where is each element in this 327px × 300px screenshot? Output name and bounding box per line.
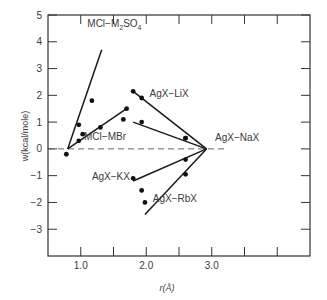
data-point (183, 136, 188, 141)
series-label: AgX−LiX (150, 88, 190, 99)
series-label: MCl−MBr (84, 131, 127, 142)
series-agx-nax: AgX−NaX (133, 120, 259, 149)
y-tick-label: −3 (31, 224, 43, 235)
y-tick-label: −2 (31, 197, 43, 208)
series-label: MCl−M2SO4 (87, 18, 141, 31)
x-axis-title: r(Å) (160, 283, 175, 293)
x-tick-label: 1.0 (74, 260, 88, 271)
data-point (139, 96, 144, 101)
fit-line (133, 122, 206, 149)
y-tick-label: 5 (36, 10, 42, 21)
fit-line (145, 149, 207, 215)
x-tick-label: 2.0 (139, 260, 153, 271)
data-point (131, 89, 136, 94)
y-axis-title: w(kcal/mole) (20, 111, 30, 163)
series-layer: MCl−M2SO4MCl−MBrAgX−LiXAgX−NaXAgX−KXAgX−… (64, 18, 260, 214)
fit-line (68, 109, 127, 149)
chart: 1.02.03.0 543210−1−2−3 MCl−M2SO4MCl−MBrA… (0, 0, 327, 300)
series-mcl-m2so4: MCl−M2SO4 (68, 18, 142, 149)
data-point (76, 122, 81, 127)
fit-line (133, 149, 206, 181)
y-tick-label: 4 (36, 36, 42, 47)
y-tick-label: 0 (36, 143, 42, 154)
y-axis-tick-labels: 543210−1−2−3 (31, 10, 43, 235)
fit-line (133, 91, 206, 149)
y-tick-label: 2 (36, 90, 42, 101)
data-point (124, 106, 129, 111)
data-point (76, 138, 81, 143)
data-point (121, 117, 126, 122)
data-point (183, 172, 188, 177)
y-tick-label: 3 (36, 63, 42, 74)
data-point (64, 152, 69, 157)
data-point (143, 200, 148, 205)
series-label: AgX−NaX (215, 132, 260, 143)
data-point (139, 120, 144, 125)
data-point (89, 98, 94, 103)
series-agx-lix: AgX−LiX (131, 88, 207, 149)
series-label: AgX−RbX (153, 193, 198, 204)
data-point (139, 188, 144, 193)
x-tick-label: 3.0 (205, 260, 219, 271)
series-label: AgX−KX (92, 171, 130, 182)
x-axis-tick-labels: 1.02.03.0 (74, 260, 219, 271)
data-point (98, 125, 103, 130)
y-tick-label: −1 (31, 170, 43, 181)
data-point (131, 176, 136, 181)
data-point (183, 157, 188, 162)
series-agx-rbx: AgX−RbX (145, 149, 207, 215)
y-tick-label: 1 (36, 117, 42, 128)
